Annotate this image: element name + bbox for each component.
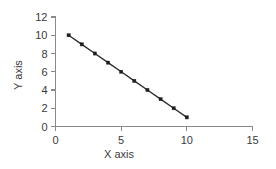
data-point-marker bbox=[185, 116, 188, 119]
x-tick-label: 5 bbox=[118, 134, 124, 146]
y-tick-label: 4 bbox=[41, 84, 47, 96]
data-point-marker bbox=[106, 61, 109, 64]
data-point-marker bbox=[120, 70, 123, 73]
chart-container: 051015 024681012 X axis Y axis bbox=[0, 0, 276, 169]
y-tick-label: 10 bbox=[35, 29, 47, 41]
x-axis-title: X axis bbox=[104, 148, 134, 160]
x-tick-label: 10 bbox=[181, 134, 193, 146]
y-tick-label: 0 bbox=[41, 121, 47, 133]
y-tick-label: 2 bbox=[41, 102, 47, 114]
y-tick-label: 8 bbox=[41, 48, 47, 60]
data-point-marker bbox=[93, 52, 96, 55]
data-point-marker bbox=[159, 98, 162, 101]
data-point-marker bbox=[172, 107, 175, 110]
data-point-marker bbox=[80, 43, 83, 46]
data-point-marker bbox=[133, 79, 136, 82]
data-point-marker bbox=[146, 88, 149, 91]
x-tick-label: 15 bbox=[246, 134, 258, 146]
x-tick-label: 0 bbox=[52, 134, 58, 146]
y-axis-title: Y axis bbox=[12, 60, 24, 90]
line-chart: 051015 024681012 X axis Y axis bbox=[0, 0, 276, 169]
y-tick-label: 6 bbox=[41, 66, 47, 78]
data-point-marker bbox=[67, 34, 70, 37]
y-tick-label: 12 bbox=[35, 11, 47, 23]
